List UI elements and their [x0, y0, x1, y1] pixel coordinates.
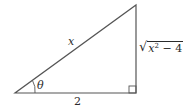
radicand: x2 − 4 [147, 41, 183, 54]
radical-sign: √ [139, 40, 147, 53]
opposite-side-label: √ x2 − 4 [139, 40, 183, 54]
triangle-diagram: x θ 2 √ x2 − 4 [0, 0, 184, 109]
angle-theta-label: θ [37, 80, 44, 91]
hypotenuse-label: x [68, 36, 74, 47]
angle-arc [33, 81, 36, 94]
triangle-figure [0, 0, 184, 109]
right-angle-marker [129, 86, 136, 93]
radicand-rest: − 4 [159, 42, 182, 55]
base-label: 2 [74, 96, 81, 107]
right-triangle [15, 5, 136, 93]
